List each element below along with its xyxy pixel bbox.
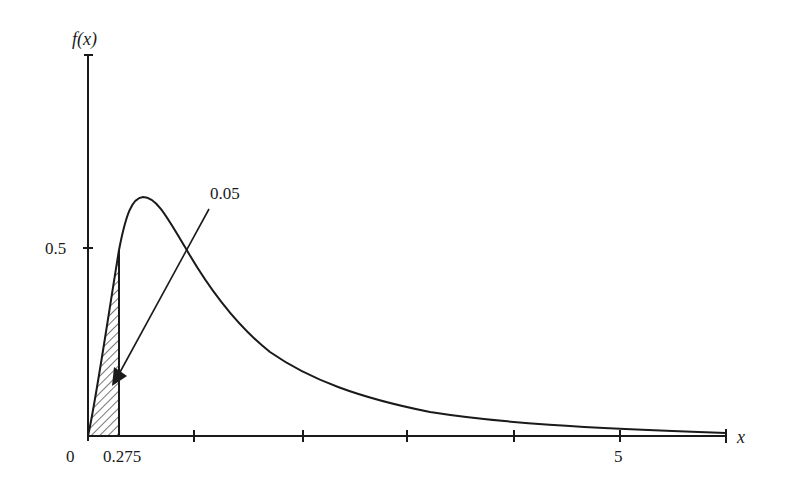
x-tick-label-5: 5 bbox=[614, 448, 623, 465]
density-curve bbox=[88, 197, 726, 436]
area-annotation-label: 0.05 bbox=[210, 185, 240, 202]
x-axis-label: x bbox=[737, 428, 745, 446]
origin-label: 0 bbox=[66, 448, 75, 465]
y-tick-label-half: 0.5 bbox=[45, 240, 66, 257]
critical-value-label: 0.275 bbox=[103, 448, 141, 465]
y-axis-label: f(x) bbox=[72, 30, 97, 48]
chart-canvas bbox=[0, 0, 786, 492]
annotation-arrow-line bbox=[119, 209, 209, 374]
